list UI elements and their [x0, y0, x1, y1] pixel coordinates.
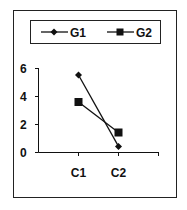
y-tick-2: 2: [20, 118, 27, 132]
y-tick-0: 0: [20, 146, 27, 160]
legend-label-g1: G1: [70, 26, 86, 40]
x-tick-c1: C1: [71, 166, 87, 180]
y-tick-6: 6: [20, 62, 27, 76]
legend-label-g2: G2: [136, 26, 152, 40]
chart-canvas: G1 G2 6 4 2 0 C1 C2: [0, 0, 187, 210]
g2-point-c2: [115, 129, 123, 137]
legend: G1 G2: [31, 21, 161, 44]
g2-point-c1: [75, 98, 83, 106]
x-tick-c2: C2: [111, 166, 127, 180]
square-marker-icon: [117, 29, 124, 36]
y-tick-4: 4: [20, 90, 27, 104]
